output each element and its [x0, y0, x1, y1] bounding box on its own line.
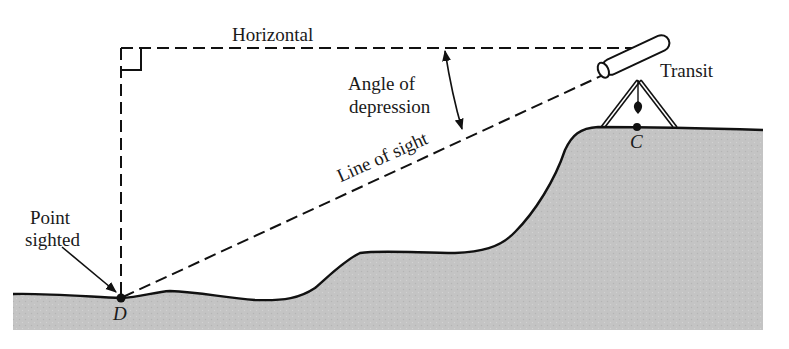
plumb-bob	[634, 101, 642, 114]
angle-of-depression-diagram: Horizontal Angle of depression Transit L…	[0, 0, 789, 349]
right-angle-marker	[121, 48, 141, 70]
transit-label: Transit	[660, 60, 713, 82]
angle-of-depression-arc	[445, 51, 462, 129]
point-d-label: D	[113, 303, 127, 325]
point-c-label: C	[630, 131, 643, 153]
point-sighted-label-line1: Point	[30, 207, 70, 229]
diagram-canvas	[0, 0, 789, 349]
angle-label-line1: Angle of	[348, 73, 415, 95]
point-d-marker	[117, 294, 126, 303]
point-sighted-arrow	[62, 247, 116, 292]
horizontal-label: Horizontal	[232, 24, 313, 46]
point-sighted-label-line2: sighted	[25, 229, 80, 251]
point-c-marker	[633, 123, 641, 131]
angle-label-line2: depression	[349, 96, 430, 118]
